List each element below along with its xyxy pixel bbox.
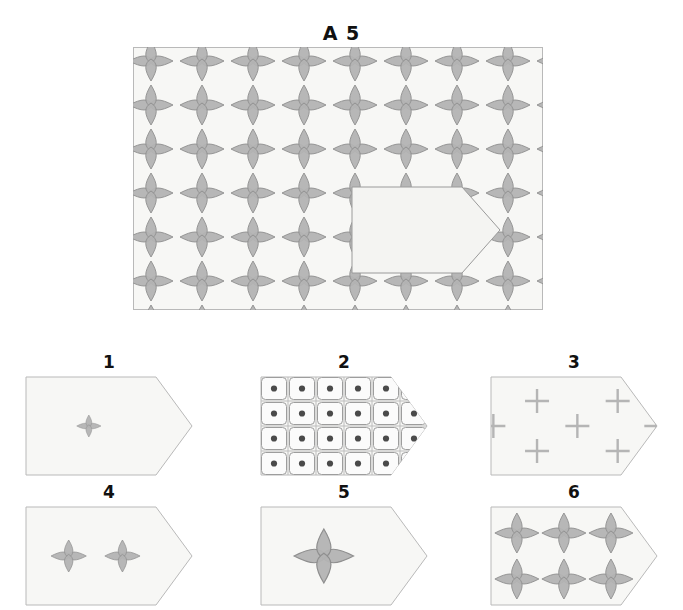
grid-cell-dot bbox=[327, 410, 333, 416]
option-svg-4[interactable] bbox=[25, 506, 193, 606]
grid-cell-dot bbox=[271, 385, 277, 391]
grid-cell-dot bbox=[327, 435, 333, 441]
grid-cell-dot bbox=[271, 460, 277, 466]
grid-cell-dot bbox=[271, 435, 277, 441]
four-petal-star-motif bbox=[231, 305, 275, 345]
option-label-3: 3 bbox=[479, 352, 669, 372]
option-figure-3[interactable] bbox=[490, 376, 658, 476]
grid-cell-dot bbox=[411, 460, 417, 466]
grid-cell-dot bbox=[271, 410, 277, 416]
grid-cell-dot bbox=[383, 410, 389, 416]
four-petal-star-motif bbox=[537, 305, 581, 345]
option-svg-1[interactable] bbox=[25, 376, 193, 476]
grid-cell-dot bbox=[411, 410, 417, 416]
grid-cell-dot bbox=[327, 385, 333, 391]
grid-cell-dot bbox=[355, 385, 361, 391]
four-petal-star-motif bbox=[537, 85, 581, 125]
panel-background bbox=[134, 48, 543, 310]
four-petal-star-motif bbox=[537, 217, 581, 257]
grid-cell-dot bbox=[299, 460, 305, 466]
grid-cell-dot bbox=[411, 435, 417, 441]
four-petal-star-motif bbox=[333, 305, 377, 345]
grid-cell-dot bbox=[299, 385, 305, 391]
four-petal-star-motif bbox=[537, 129, 581, 169]
option-figure-6[interactable] bbox=[490, 506, 658, 606]
main-pattern-svg bbox=[133, 47, 543, 310]
four-petal-star-motif bbox=[282, 305, 326, 345]
grid-cell-dot bbox=[299, 435, 305, 441]
four-petal-star-motif bbox=[537, 261, 581, 301]
four-petal-star-motif bbox=[180, 305, 224, 345]
option-figure-2[interactable] bbox=[260, 376, 428, 476]
answer-option-6[interactable]: 6 bbox=[479, 482, 669, 607]
main-pattern-panel bbox=[133, 47, 543, 310]
four-petal-star-motif bbox=[537, 41, 581, 81]
option-figure-4[interactable] bbox=[25, 506, 193, 606]
grid-cell-dot bbox=[383, 385, 389, 391]
four-petal-star-motif bbox=[486, 305, 530, 345]
answer-option-3[interactable]: 3 bbox=[479, 352, 669, 477]
answer-option-4[interactable]: 4 bbox=[14, 482, 204, 607]
four-petal-star-motif bbox=[129, 305, 173, 345]
four-petal-star-motif bbox=[384, 305, 428, 345]
option-svg-5[interactable] bbox=[260, 506, 428, 606]
option-svg-3[interactable] bbox=[490, 376, 658, 476]
answer-option-1[interactable]: 1 bbox=[14, 352, 204, 477]
answer-option-2[interactable]: 2 bbox=[249, 352, 439, 477]
option-svg-2[interactable] bbox=[260, 376, 428, 476]
grid-cell-dot bbox=[383, 460, 389, 466]
option-label-1: 1 bbox=[14, 352, 204, 372]
grid-cell-dot bbox=[327, 460, 333, 466]
grid-cell-dot bbox=[355, 410, 361, 416]
answer-option-5[interactable]: 5 bbox=[249, 482, 439, 607]
grid-cell-dot bbox=[299, 410, 305, 416]
option-content-2 bbox=[260, 376, 428, 476]
pattern-completion-puzzle: A 5 1 2 3 4 5 6 bbox=[0, 0, 683, 610]
option-label-6: 6 bbox=[479, 482, 669, 502]
grid-cell-dot bbox=[355, 460, 361, 466]
option-shape-1[interactable] bbox=[26, 377, 192, 475]
option-svg-6[interactable] bbox=[490, 506, 658, 606]
four-petal-star-motif bbox=[435, 305, 479, 345]
option-label-2: 2 bbox=[249, 352, 439, 372]
four-petal-star-motif bbox=[537, 173, 581, 213]
grid-cell-dot bbox=[383, 435, 389, 441]
page-title: A 5 bbox=[0, 22, 683, 44]
option-figure-1[interactable] bbox=[25, 376, 193, 476]
option-label-4: 4 bbox=[14, 482, 204, 502]
grid-cell-dot bbox=[355, 435, 361, 441]
option-label-5: 5 bbox=[249, 482, 439, 502]
grid-cell-dot bbox=[411, 385, 417, 391]
option-figure-5[interactable] bbox=[260, 506, 428, 606]
